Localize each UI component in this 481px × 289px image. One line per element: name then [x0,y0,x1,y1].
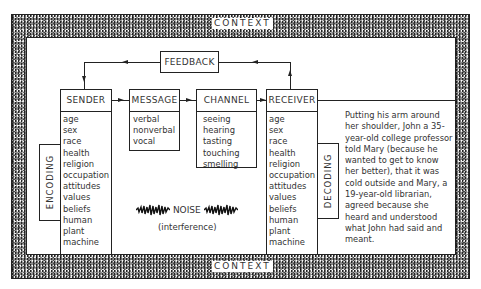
list-item: nonverbal [133,125,175,136]
noise-group: NOISE [136,204,238,216]
list-item: sex [269,125,315,136]
sender-divider [60,111,112,112]
list-item: age [269,114,315,125]
noise-label: NOISE [173,205,201,215]
arrow-right-icon [186,98,192,102]
message-types: verbal nonverbal vocal [133,114,175,148]
list-item: vocal [133,136,175,147]
sender-label: SENDER [60,90,112,110]
encoding-label: ENCODING [44,142,56,222]
list-item: machine [63,237,109,248]
context-label-top: CONTEXT [212,18,273,29]
arrow-down-icon [82,76,86,82]
receiver-attributes: age sex race health religion occupation … [269,114,315,248]
feedback-box: FEEDBACK [160,51,219,73]
list-item: human [269,215,315,226]
decoding-label: DECODING [322,141,334,221]
list-item: occupation [63,170,109,181]
list-item: smelling [203,159,240,170]
list-item: sex [63,125,109,136]
list-item: race [269,136,315,147]
example-story: Putting his arm around her shoulder, Joh… [345,110,453,246]
list-item: verbal [133,114,175,125]
list-item: seeing [203,114,240,125]
list-item: occupation [269,170,315,181]
list-item: human [63,215,109,226]
list-item: beliefs [269,204,315,215]
list-item: machine [269,237,315,248]
arrow-up-icon [288,70,292,76]
list-item: hearing [203,125,240,136]
noise-wave-icon [204,204,238,216]
receiver-label: RECEIVER [266,90,318,110]
list-item: health [63,148,109,159]
list-item: attitudes [63,181,109,192]
list-item: tasting [203,136,240,147]
noise-wave-icon [136,204,170,216]
channel-divider [196,111,257,112]
noise-sublabel: (interference) [158,222,217,232]
list-item: beliefs [63,204,109,215]
list-item: values [63,192,109,203]
list-item: religion [63,159,109,170]
arrow-left-icon [252,60,258,64]
receiver-divider [266,111,318,112]
channel-senses: seeing hearing tasting touching smelling [203,114,240,170]
list-item: health [269,148,315,159]
list-item: touching [203,148,240,159]
list-item: attitudes [269,181,315,192]
message-divider [129,111,180,112]
arrow-right-icon [118,98,124,102]
feedback-label: FEEDBACK [161,52,218,72]
list-item: race [63,136,109,147]
list-item: religion [269,159,315,170]
context-label-bottom: CONTEXT [212,261,273,272]
list-item: values [269,192,315,203]
channel-label: CHANNEL [196,90,257,110]
message-label: MESSAGE [129,90,180,110]
sender-attributes: age sex race health religion occupation … [63,114,109,248]
list-item: plant [63,226,109,237]
list-item: age [63,114,109,125]
receiver-context-line [318,100,456,101]
arrow-left-icon [122,60,128,64]
list-item: plant [269,226,315,237]
